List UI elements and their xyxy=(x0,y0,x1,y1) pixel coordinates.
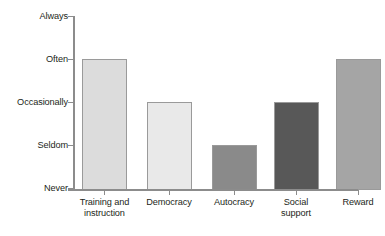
y-tick-label-often: Often xyxy=(0,55,68,64)
x-tick-label-social-support: Social support xyxy=(264,197,328,218)
bar-democracy[interactable] xyxy=(147,102,192,190)
x-tick-label-autocracy: Autocracy xyxy=(200,197,268,208)
bar-training-and-instruction[interactable] xyxy=(82,59,127,190)
x-tick-label-democracy: Democracy xyxy=(134,197,204,208)
bar-reward[interactable] xyxy=(336,59,381,190)
x-tick-label-line-1: Social xyxy=(264,197,328,208)
x-tick-mark-training-and-instruction xyxy=(104,190,105,195)
bar-social-support[interactable] xyxy=(274,102,319,190)
y-tick-mark-often xyxy=(68,59,73,60)
y-tick-mark-seldom xyxy=(68,145,73,146)
x-axis-line xyxy=(68,189,358,191)
x-tick-label-line-1: Reward xyxy=(326,197,385,208)
y-tick-label-never: Never xyxy=(0,184,68,193)
y-tick-label-seldom: Seldom xyxy=(0,141,68,150)
x-tick-mark-autocracy xyxy=(234,190,235,195)
y-tick-label-always: Always xyxy=(0,12,68,21)
x-tick-label-line-1: Democracy xyxy=(134,197,204,208)
y-tick-label-occasionally: Occasionally xyxy=(0,98,68,107)
x-tick-mark-democracy xyxy=(169,190,170,195)
y-tick-mark-occasionally xyxy=(68,102,73,103)
y-tick-mark-always xyxy=(68,16,73,17)
x-tick-label-line-1: Autocracy xyxy=(200,197,268,208)
x-tick-mark-social-support xyxy=(296,190,297,195)
x-tick-label-reward: Reward xyxy=(326,197,385,208)
x-tick-label-line-2: instruction xyxy=(57,208,152,219)
bar-autocracy[interactable] xyxy=(212,145,257,190)
plot-area xyxy=(74,16,357,190)
x-tick-label-line-2: support xyxy=(264,208,328,219)
x-tick-mark-reward xyxy=(358,190,359,195)
